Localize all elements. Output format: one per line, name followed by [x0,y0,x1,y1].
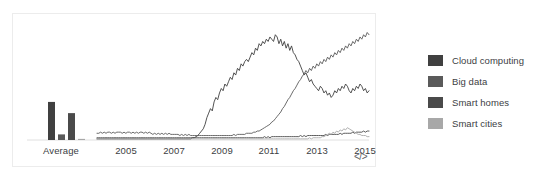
legend-item-label: Smart homes [452,97,509,108]
x-axis-tick-label: 2009 [211,145,233,156]
legend-item[interactable]: Big data [428,72,540,91]
x-axis-tick-label: 2011 [259,145,280,156]
legend-item[interactable]: Smart cities [428,114,540,133]
series-line [97,35,369,139]
series-line [97,32,369,135]
legend-swatch-icon [428,76,443,87]
legend-item-label: Cloud computing [452,55,524,66]
legend-item[interactable]: Cloud computing [428,51,540,70]
chart-panel: Average200520072009201120132015 </> [12,13,376,167]
average-bar [78,139,85,140]
legend-item-label: Big data [452,76,487,87]
average-bar [48,102,55,140]
code-embed-icon[interactable]: </> [354,151,367,162]
chart-legend: Cloud computingBig dataSmart homesSmart … [428,51,540,135]
legend-swatch-icon [428,118,443,129]
average-bar [68,113,75,140]
legend-item[interactable]: Smart homes [428,93,540,112]
plot-svg [13,14,377,148]
average-bar [58,134,65,140]
x-axis-tick-label: 2013 [306,145,328,156]
legend-item-label: Smart cities [452,118,502,129]
x-axis-tick-label: 2005 [115,145,137,156]
x-axis: Average200520072009201120132015 [13,145,377,161]
legend-swatch-icon [428,97,443,108]
x-axis-tick-label: 2007 [163,145,185,156]
plot-area[interactable] [13,14,377,148]
x-axis-tick-label: Average [43,145,79,156]
legend-swatch-icon [428,55,443,66]
trends-chart-widget: Average200520072009201120132015 </> Clou… [0,0,544,181]
